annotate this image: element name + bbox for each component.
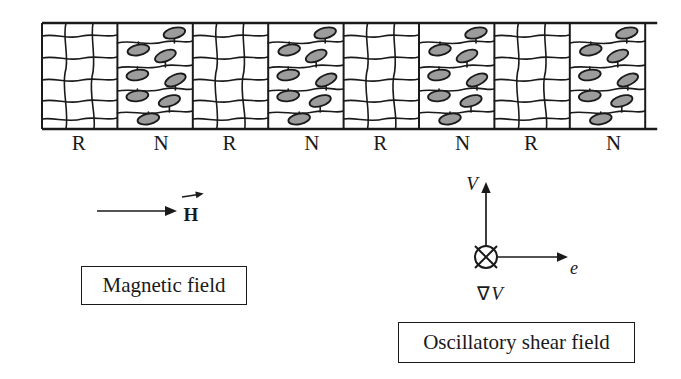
band-cell-nematic-7 [570,25,645,126]
magnetic-field-caption-box: Magnetic field [81,266,247,305]
region-label-2: R [222,131,236,155]
band-region-labels: RNRNRNRN [72,131,621,155]
shear-field-caption-box: Oscillatory shear field [398,322,635,363]
region-label-3: N [304,131,319,155]
region-label-1: N [154,131,169,155]
region-label-4: R [373,131,387,155]
band-cell-network-2 [193,23,268,129]
gradient-variable: V [491,283,503,304]
region-label-7: N [606,131,621,155]
magnetic-field-caption: Magnetic field [102,273,225,298]
band-cell-network-4 [344,23,419,129]
band-cell-nematic-5 [419,25,494,126]
shear-field-caption: Oscillatory shear field [423,330,610,355]
velocity-gradient-label: ∇V [477,284,503,303]
band-cell-nematic-1 [117,25,192,126]
direction-axis-label: e [570,259,578,277]
magnetic-field-arrow [97,206,177,216]
region-label-0: R [72,131,86,155]
band-cell-network-0 [42,23,117,129]
band-cell-network-6 [494,23,569,129]
region-label-6: R [524,131,538,155]
band-cell-nematic-3 [268,25,343,126]
magnetic-field-symbol: H [184,205,199,224]
direction-axis-arrow [498,252,568,261]
velocity-axis-arrow [481,182,490,250]
region-label-5: N [455,131,470,155]
h-vector-arrow [181,190,204,200]
gradient-into-page-symbol [475,246,497,268]
velocity-axis-label: V [466,174,478,193]
figure: RNRNRNRN H V e ∇V Magnetic [0,0,681,379]
nabla-symbol: ∇ [477,283,490,304]
